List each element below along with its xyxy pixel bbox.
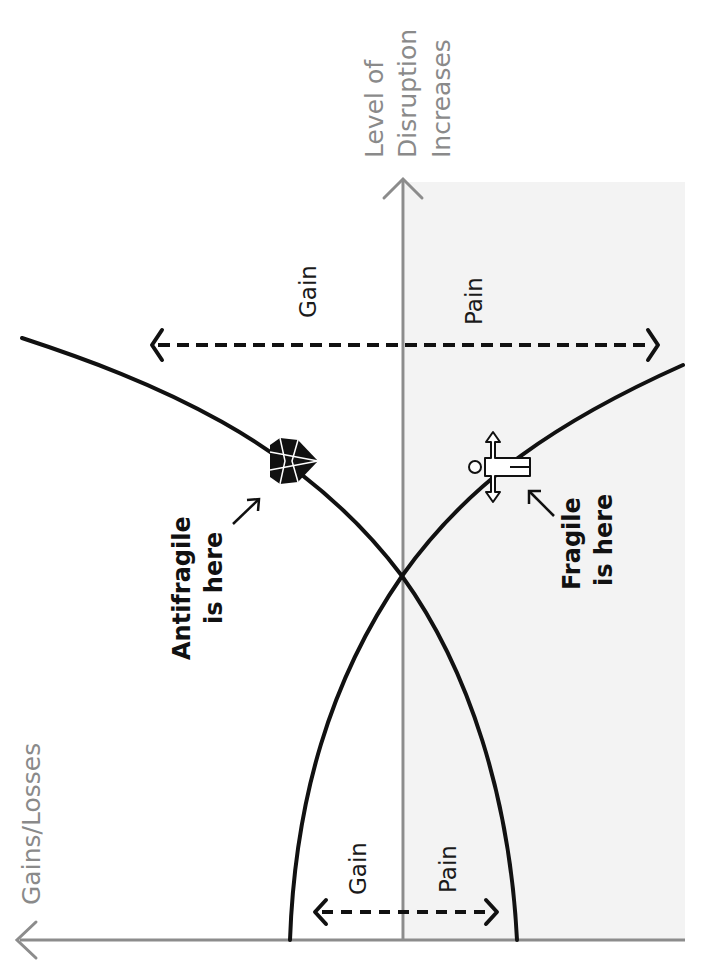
top-gain-label: Gain — [295, 265, 321, 318]
svg-text:is here: is here — [590, 494, 618, 586]
antifragile-diagram: Gains/Losses Level of Disruption Increas… — [0, 0, 706, 976]
top-pain-label: Pain — [461, 277, 487, 325]
svg-text:Disruption: Disruption — [393, 29, 422, 158]
pain-region-shading — [405, 182, 685, 940]
svg-text:Fragile: Fragile — [558, 497, 586, 590]
bottom-gain-label: Gain — [345, 842, 371, 895]
svg-text:Increases: Increases — [427, 39, 456, 158]
svg-text:is here: is here — [200, 532, 228, 624]
disruption-axis-label: Level of Disruption Increases — [360, 29, 456, 158]
diamond-icon — [270, 438, 318, 484]
svg-text:Level of: Level of — [360, 59, 389, 158]
svg-text:Antifragile: Antifragile — [168, 516, 196, 660]
bottom-pain-label: Pain — [435, 845, 461, 893]
gains-losses-label: Gains/Losses — [17, 743, 46, 905]
antifragile-callout: Antifragile is here — [168, 499, 259, 660]
